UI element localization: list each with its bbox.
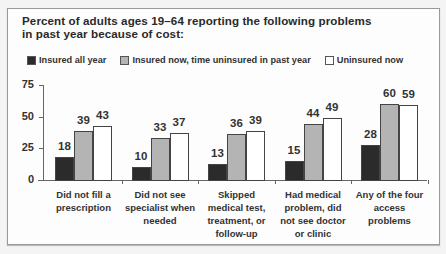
bar [132,167,151,181]
category-label-line: needed [121,214,199,227]
x-tick-mark [275,180,276,184]
category-label-line: Skipped [198,188,276,201]
x-tick-mark [351,180,352,184]
category-label-line: not see doctor [274,214,352,227]
category-label-line: prescription [45,201,123,214]
category-label: Had medicalproblem, didnot see doctoror … [274,188,352,240]
y-tick-mark [39,180,44,181]
bar [74,131,93,181]
bar [170,133,189,181]
x-tick-mark [428,180,429,184]
category-label-line: or clinic [274,227,352,240]
category-label-line: treatment, or [198,214,276,227]
bar [208,164,227,181]
category-label-line: Did not fill a [45,188,123,201]
bar [227,134,246,181]
category-label-line: Any of the four [351,188,429,201]
y-tick-mark [39,148,44,149]
category-label-line: problem, did [274,201,352,214]
category-label: Did not fill aprescription [45,188,123,214]
x-tick-mark [198,180,199,184]
category-label: Did not seespecialist whenneeded [121,188,199,227]
y-tick-label: 75 [8,78,34,90]
bar [399,105,418,181]
plot-area: 0255075183943Did not fill aprescription1… [0,0,446,254]
bar-value-label: 59 [396,88,422,100]
category-label: Skippedmedical test,treatment, orfollow-… [198,188,276,240]
bar-value-label: 43 [90,109,116,121]
bar [93,126,112,181]
y-tick-label: 0 [8,173,34,185]
y-tick-mark [39,85,44,86]
bar [323,118,342,181]
y-tick-label: 25 [8,141,34,153]
bar [361,145,380,181]
bar [304,124,323,181]
bar-value-label: 37 [166,116,192,128]
y-axis [43,85,44,181]
bar [380,104,399,181]
category-label-line: follow-up [198,227,276,240]
y-tick-mark [39,117,44,118]
category-label-line: Had medical [274,188,352,201]
category-label-line: problems [351,214,429,227]
category-label-line: medical test, [198,201,276,214]
x-tick-mark [122,180,123,184]
category-label: Any of the fouraccessproblems [351,188,429,227]
bar [151,138,170,181]
bar-value-label: 39 [243,114,269,126]
category-label-line: specialist when [121,201,199,214]
bar [55,157,74,181]
bar-value-label: 49 [319,101,345,113]
y-tick-label: 50 [8,110,34,122]
category-label-line: access [351,201,429,214]
bar [285,161,304,181]
category-label-line: Did not see [121,188,199,201]
bar [246,131,265,181]
